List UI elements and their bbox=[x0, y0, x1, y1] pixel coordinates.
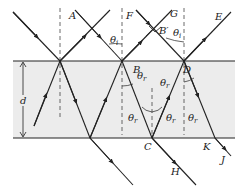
label-theta-i-1: θi bbox=[110, 34, 118, 47]
label-J: J bbox=[219, 154, 226, 165]
label-theta-i-2: θi bbox=[173, 27, 181, 40]
thin-film-diagram: d bbox=[0, 0, 239, 193]
label-E: E bbox=[214, 11, 223, 22]
label-D: D bbox=[182, 64, 191, 75]
label-H: H bbox=[170, 166, 180, 177]
label-d: d bbox=[20, 95, 26, 106]
label-A: A bbox=[68, 10, 76, 21]
label-G: G bbox=[170, 8, 178, 19]
label-K: K bbox=[202, 141, 211, 152]
label-F: F bbox=[125, 10, 134, 21]
label-C: C bbox=[144, 141, 152, 152]
film-layer bbox=[13, 61, 235, 138]
label-Bprime: B′ bbox=[158, 25, 169, 36]
